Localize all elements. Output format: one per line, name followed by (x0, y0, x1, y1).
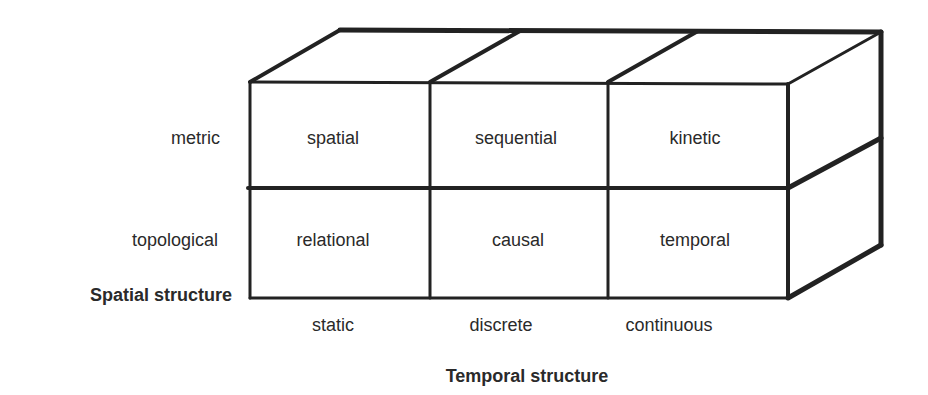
row-label-metric: metric (171, 128, 220, 149)
cube-lines (0, 0, 928, 395)
cell-causal: causal (492, 230, 544, 251)
cell-temporal: temporal (660, 230, 730, 251)
cell-kinetic: kinetic (669, 128, 720, 149)
cell-spatial: spatial (307, 128, 359, 149)
col-label-static: static (312, 315, 354, 336)
col-label-discrete: discrete (469, 315, 532, 336)
cell-relational: relational (296, 230, 369, 251)
cube-diagram: spatial sequential kinetic relational ca… (0, 0, 928, 395)
row-axis-title: Spatial structure (90, 285, 232, 306)
col-label-continuous: continuous (625, 315, 712, 336)
cell-sequential: sequential (475, 128, 557, 149)
column-axis-title: Temporal structure (446, 366, 609, 387)
row-label-topological: topological (132, 230, 218, 251)
